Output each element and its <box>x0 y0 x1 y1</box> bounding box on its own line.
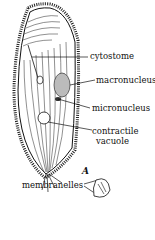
membranelles-shape <box>93 179 110 197</box>
label-contractile: contractile <box>92 127 139 136</box>
macronucleus-shape <box>54 73 70 97</box>
cytostome-shape <box>37 76 43 84</box>
panel-label: A <box>82 166 89 176</box>
label-micronucleus: micronucleus <box>92 104 150 113</box>
label-membranelles: membranelles <box>22 181 83 190</box>
label-cytostome: cytostome <box>90 52 134 61</box>
label-macronucleus: macronucleus <box>96 76 155 85</box>
label-vacuole: vacuole <box>96 137 129 146</box>
